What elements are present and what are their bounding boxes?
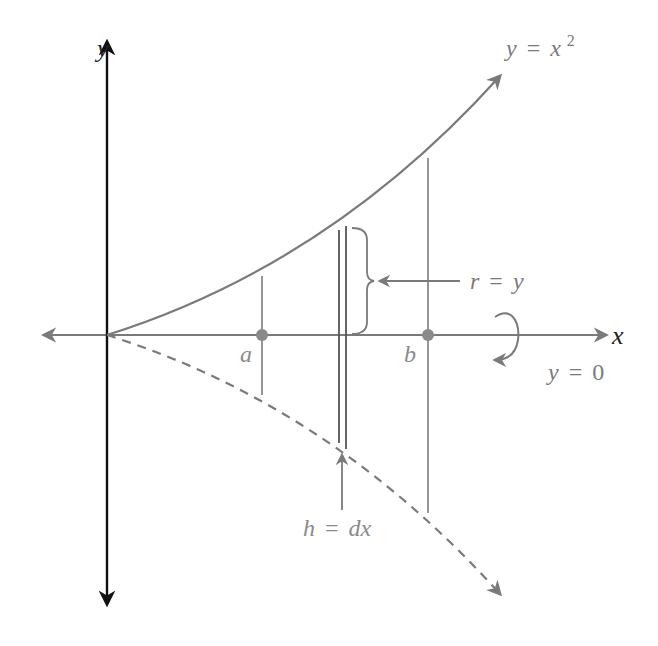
x-axis-label: x: [611, 321, 624, 350]
curve-y-equals-x-squared: [107, 76, 500, 335]
point-a: [256, 329, 268, 341]
point-b-label: b: [404, 341, 416, 367]
rotation-arrow-icon: [495, 313, 518, 360]
height-label: h = dx: [303, 515, 372, 541]
axis-of-rotation-label: y = 0: [546, 359, 604, 385]
radius-label: r = y: [470, 268, 524, 294]
reflected-curve-dashed: [107, 335, 500, 594]
y-axis-label: y: [94, 34, 109, 63]
radius-brace: [352, 228, 374, 334]
disk-method-diagram: y x y = x 2 a b r = y h = dx y = 0: [0, 0, 658, 646]
curve-label: y = x 2: [504, 32, 575, 61]
point-b: [422, 329, 434, 341]
point-a-label: a: [240, 341, 252, 367]
